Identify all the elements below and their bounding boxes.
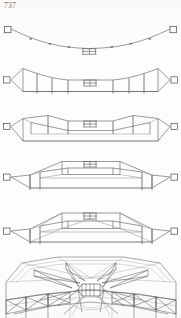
fig4-right-support (171, 174, 178, 180)
fig3-end-wedges (11, 119, 170, 142)
fig3-right-support (171, 123, 178, 129)
fig1-left-support (5, 27, 12, 33)
fig1-cable (11, 29, 170, 49)
fig4-diagonals (30, 172, 152, 178)
fig6-lattice-web-right (112, 292, 176, 314)
fig6-roof-planes (6, 257, 176, 282)
fig3-vertical-posts (48, 116, 133, 135)
fig4-inner-chord (40, 162, 142, 175)
fig1-right-support (170, 27, 177, 33)
fig2-central-hanger-frame (83, 80, 97, 86)
figure-1-suspended-cable-sagging-span (0, 24, 181, 58)
fig6-lattice-web-left (6, 292, 70, 314)
figure-5-trapezoidal-truss-with-full-web (0, 196, 181, 254)
fig2-right-support (171, 77, 178, 83)
fig2-left-support (4, 77, 11, 83)
fig3-top-chord (23, 116, 158, 122)
fig3-left-support (4, 123, 11, 129)
fig5-right-support (171, 228, 178, 234)
fig2-vertical-posts (37, 74, 144, 94)
fig5-central-hanger-frame (83, 213, 97, 219)
figure-3-deepened-truss-with-diagonals (0, 104, 181, 150)
fig2-top-chord (23, 69, 158, 81)
fig4-left-support (4, 174, 11, 180)
fig4-end-wedges (11, 175, 170, 188)
fig5-web-diagonals (30, 213, 152, 242)
fig5-left-support (4, 228, 11, 234)
fig5-inner-chord (40, 213, 142, 229)
figure-stack (0, 0, 181, 318)
figure-2-shallow-truss-with-vertical-posts (0, 58, 181, 104)
fig3-central-hanger-frame (83, 121, 97, 127)
scanned-page: 737 (0, 0, 181, 318)
fig1-central-hanger-frame (82, 49, 97, 55)
fig4-central-hanger-frame (83, 162, 97, 168)
figure-4-trapezoidal-truss-raised-center (0, 150, 181, 196)
figure-6-three-dimensional-roof-structure (0, 254, 181, 318)
